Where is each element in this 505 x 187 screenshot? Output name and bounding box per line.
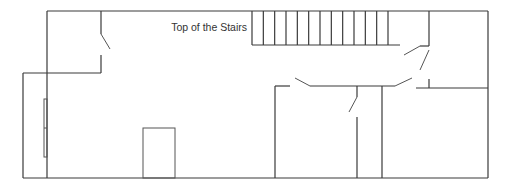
hall-door-left — [295, 78, 310, 86]
landing-door-1 — [404, 46, 420, 55]
left-window — [44, 99, 47, 157]
stairs — [252, 11, 400, 45]
outer-walls — [23, 11, 488, 178]
upper-right-area — [404, 11, 488, 88]
stairs-label: Top of the Stairs — [171, 21, 247, 33]
floor-plan: Top of the Stairs — [0, 0, 505, 187]
closet-door — [101, 34, 110, 49]
landing-door-2 — [420, 50, 429, 70]
hallway — [295, 78, 412, 86]
hall-door-right — [395, 78, 412, 86]
bottom-fixture — [143, 128, 175, 178]
top-left-closet — [101, 11, 110, 73]
room-b-door — [349, 97, 357, 112]
lower-rooms — [275, 86, 382, 178]
